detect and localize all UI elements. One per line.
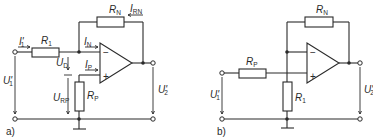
arrow-u1-b	[221, 77, 224, 114]
junction-ground-a	[77, 117, 81, 121]
label-ip-a: IP	[85, 59, 92, 71]
terminal-output-b	[358, 61, 362, 65]
junction-minus-a	[77, 50, 81, 54]
caption-b: b)	[217, 126, 226, 137]
terminal-input-b	[220, 71, 224, 75]
arrow-urp-a	[67, 78, 70, 114]
label-rn-b: RN	[316, 4, 328, 16]
resistor-rn-b	[305, 17, 333, 27]
resistor-rp-a	[75, 82, 84, 111]
terminal-ground-out-b	[358, 117, 362, 121]
opamp-minus-a: −	[103, 47, 109, 58]
label-in-a: IN	[84, 36, 92, 48]
label-ud-a: UD	[56, 57, 68, 69]
terminal-input-a	[13, 50, 17, 54]
circuit-a: − +	[3, 3, 168, 137]
junction-ground-b	[285, 117, 289, 121]
label-u1-b: U'1	[210, 89, 220, 101]
resistor-r1-b	[283, 82, 292, 111]
terminal-output-a	[151, 61, 155, 65]
label-irn-a: IRN	[130, 3, 142, 15]
circuit-b: − + RP RN R1 U'1 U'2 b)	[210, 4, 373, 137]
label-u2-a: U'2	[158, 84, 168, 96]
label-urp-a: URP	[53, 92, 69, 104]
label-rn-a: RN	[109, 4, 121, 16]
junction-output-a	[141, 61, 145, 65]
junction-output-b	[347, 61, 351, 65]
resistor-rp-b	[239, 69, 266, 78]
label-u2-b: U'2	[364, 84, 373, 96]
opamp-minus-b: −	[310, 47, 316, 58]
caption-a: a)	[6, 126, 15, 137]
terminal-ground-in-b	[220, 117, 224, 121]
label-r1-b: R1	[295, 92, 306, 104]
label-rp-a: RP	[87, 90, 99, 102]
arrow-u1-a	[14, 56, 17, 114]
label-i1-a: I'1	[19, 36, 25, 48]
label-u1-a: U'1	[3, 75, 13, 87]
junction-minus-b	[285, 50, 289, 54]
terminal-ground-out-a	[151, 117, 155, 121]
label-r1-a: R1	[41, 35, 52, 47]
resistor-rn-a	[97, 17, 124, 27]
resistor-r1-a	[32, 48, 59, 57]
opamp-plus-b: +	[310, 71, 316, 82]
terminal-ground-in-a	[13, 117, 17, 121]
opamp-plus-a: +	[103, 71, 109, 82]
circuit-diagrams: − +	[0, 0, 373, 140]
arrow-u2-a	[152, 67, 155, 114]
label-rp-b: RP	[246, 56, 258, 68]
arrow-u2-b	[359, 67, 362, 114]
